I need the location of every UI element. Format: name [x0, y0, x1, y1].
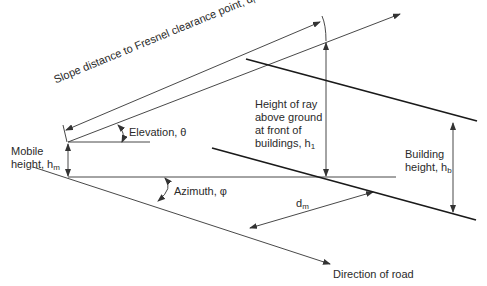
- ray-height-sub: 1: [311, 142, 315, 151]
- ray-height-line1: Height of ray: [255, 98, 322, 111]
- extension-line-left: [63, 125, 67, 142]
- building-height-label: Building height, hb: [405, 148, 452, 177]
- mobile-height-text: height, h: [11, 158, 53, 170]
- diagram-canvas: Slope distance to Fresnel clearance poin…: [0, 0, 487, 286]
- mobile-height-line1: Mobile: [11, 145, 60, 158]
- azimuth-arc: [158, 178, 168, 201]
- building-height-line1: Building: [405, 148, 452, 161]
- road-direction-label: Direction of road: [333, 268, 414, 281]
- ray-line: [68, 14, 400, 142]
- mobile-height-sub: m: [53, 163, 60, 172]
- road-line: [33, 167, 330, 264]
- distance-to-buildings-arrow: [250, 192, 373, 228]
- elevation-arc: [118, 125, 123, 142]
- building-height-sub: b: [447, 166, 451, 175]
- ray-height-line4: buildings, h1: [255, 137, 322, 153]
- mobile-height-line2: height, hm: [11, 158, 60, 174]
- distance-sub: m: [302, 202, 309, 211]
- diagram-lines: [0, 0, 487, 286]
- ray-height-label: Height of ray above ground at front of b…: [255, 98, 322, 153]
- ray-height-line2: above ground: [255, 111, 322, 124]
- building-height-text: height, h: [405, 161, 447, 173]
- azimuth-label: Azimuth, φ: [174, 185, 227, 198]
- ray-height-line3: at front of: [255, 124, 322, 137]
- elevation-label: Elevation, θ: [129, 126, 186, 139]
- building-height-line2: height, hb: [405, 161, 452, 177]
- distance-to-buildings-label: dm: [296, 197, 309, 213]
- ray-height-text: buildings, h: [255, 137, 311, 149]
- mobile-height-label: Mobile height, hm: [11, 145, 60, 174]
- extension-line-right: [322, 16, 326, 41]
